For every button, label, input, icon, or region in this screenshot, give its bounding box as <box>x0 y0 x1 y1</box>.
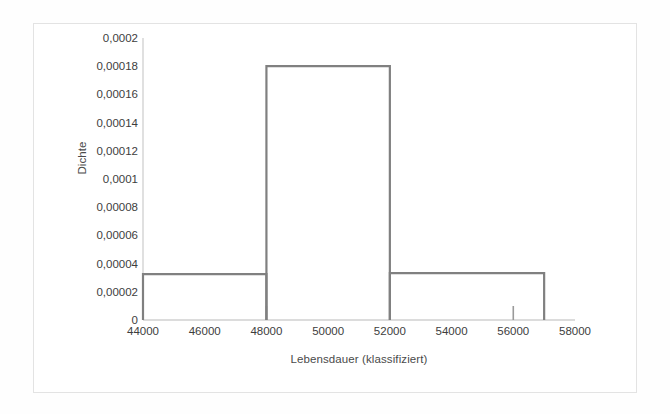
histogram-bar <box>143 274 266 320</box>
axis-tick-marks <box>143 306 513 320</box>
plot-area <box>0 0 670 414</box>
histogram-bar <box>266 66 389 320</box>
histogram-bar <box>390 273 544 320</box>
axis-lines <box>143 38 575 320</box>
chart-figure: Dichte Lebensdauer (klassifiziert) 00,00… <box>0 0 670 414</box>
histogram-bars <box>143 66 544 320</box>
